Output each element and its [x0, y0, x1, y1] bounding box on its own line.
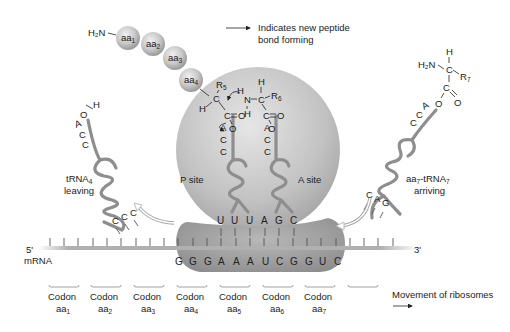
translation-diagram: 5' mRNA 3' G G G A A A U C G G U C U U U…: [0, 0, 510, 332]
mrna-base: A: [218, 256, 225, 267]
legend-text-line2: bond forming: [258, 34, 313, 45]
movement-legend: Movement of ribosomes: [392, 289, 494, 306]
legend-text-line1: Indicates new peptide: [258, 22, 350, 33]
codon-label: Codon aa1: [48, 291, 76, 315]
acc-base: C: [264, 134, 271, 145]
svg-text:Codon: Codon: [219, 291, 247, 302]
mrna-base: A: [233, 256, 240, 267]
acc-base: C: [264, 146, 271, 157]
leaving-trna-label-line2: leaving: [64, 185, 94, 196]
svg-text:C: C: [121, 211, 128, 222]
mrna-base: G: [175, 256, 183, 267]
mrna-base: C: [276, 256, 283, 267]
svg-text:aa6: aa6: [270, 303, 285, 315]
svg-text:Codon: Codon: [262, 291, 290, 302]
anticodon-base: U: [246, 215, 253, 226]
codon-label: Codon aa6: [262, 291, 290, 315]
svg-text:aa4: aa4: [184, 303, 199, 315]
svg-text:R7: R7: [460, 71, 471, 83]
svg-text:aa7: aa7: [312, 303, 327, 315]
svg-text:N: N: [244, 94, 251, 105]
svg-text:aa5: aa5: [227, 303, 242, 315]
leaving-trna: H O A C C C C C tRNA4 leaving: [64, 99, 174, 234]
three-prime-label: 3': [414, 244, 421, 255]
mrna-base: U: [262, 256, 269, 267]
mrna-base: G: [189, 256, 197, 267]
svg-text:C: C: [112, 215, 119, 226]
anticodon-base: A: [261, 215, 268, 226]
movement-label: Movement of ribosomes: [392, 289, 494, 300]
svg-text:C: C: [443, 82, 450, 93]
codon-label: Codon aa7: [304, 291, 332, 315]
svg-text:H: H: [199, 103, 206, 114]
svg-text:Codon: Codon: [304, 291, 332, 302]
svg-text:C: C: [258, 94, 265, 105]
svg-text:O: O: [435, 98, 442, 109]
svg-text:C: C: [263, 110, 270, 121]
amino-acid-bead: aa2: [141, 32, 165, 56]
svg-text:C: C: [446, 64, 453, 75]
mrna-base: C: [334, 256, 341, 267]
codon-label: Codon aa2: [90, 291, 118, 315]
anticodon-base: U: [217, 215, 224, 226]
a-site-label: A site: [298, 174, 321, 185]
svg-text:H: H: [446, 46, 453, 57]
codon-labels: Codon aa1 Codon aa2 Codon aa3 Codon aa4 …: [48, 285, 378, 315]
svg-text:C: C: [82, 139, 89, 150]
svg-text:O: O: [229, 123, 236, 134]
svg-text:H: H: [237, 85, 244, 96]
svg-text:O: O: [268, 123, 275, 134]
svg-text:C: C: [416, 109, 423, 120]
amino-acid-bead: aa1: [116, 26, 140, 50]
svg-text:H: H: [258, 76, 265, 87]
amino-acid-bead: aa3: [163, 46, 187, 70]
svg-text:O: O: [80, 109, 87, 120]
mrna-base: G: [290, 256, 298, 267]
peptide-chain: H₂N aa1 aa2 aa3 aa4: [88, 26, 209, 96]
ribosome-large-subunit: [176, 67, 340, 233]
svg-text:O: O: [277, 110, 284, 121]
leaving-trna-label-line1: tRNA4: [66, 173, 93, 185]
mrna-base: A: [247, 256, 254, 267]
mrna-label: mRNA: [24, 255, 53, 266]
acc-base: C: [220, 134, 227, 145]
svg-text:H: H: [93, 99, 100, 110]
svg-text:Codon: Codon: [48, 291, 76, 302]
amino-acid-bead: aa4: [179, 68, 203, 92]
mrna-base: U: [319, 256, 326, 267]
codon-label: Codon aa4: [176, 291, 204, 315]
codon-label: Codon aa5: [219, 291, 247, 315]
five-prime-label: 5': [26, 244, 33, 255]
legend: Indicates new peptide bond forming: [226, 22, 350, 45]
svg-text:A: A: [374, 193, 381, 204]
svg-text:H₂N: H₂N: [418, 59, 436, 70]
svg-text:aa3: aa3: [141, 303, 156, 315]
svg-text:C: C: [410, 117, 417, 128]
svg-text:Codon: Codon: [90, 291, 118, 302]
acc-base: C: [220, 146, 227, 157]
svg-text:aa1: aa1: [56, 303, 71, 315]
mrna-base: G: [305, 256, 313, 267]
svg-text:O: O: [454, 97, 461, 108]
svg-text:H: H: [244, 108, 251, 119]
p-site-label: P site: [180, 174, 204, 185]
anticodon-base: C: [290, 215, 297, 226]
anticodon-base: G: [275, 215, 283, 226]
arriving-trna: H H₂N C R7 C O O A C C C A G aa7-tRNA7 a…: [336, 46, 471, 230]
svg-text:G: G: [382, 197, 389, 208]
arriving-trna-label-line1: aa7-tRNA7: [406, 173, 450, 185]
arriving-trna-label-line2: arriving: [414, 185, 445, 196]
svg-text:Codon: Codon: [176, 291, 204, 302]
svg-text:C: C: [224, 110, 231, 121]
mrna-base: G: [204, 256, 212, 267]
n-terminus: H₂N: [88, 27, 106, 38]
anticodon-base: U: [231, 215, 238, 226]
codon-label: Codon aa3: [133, 291, 161, 315]
svg-text:aa2: aa2: [98, 303, 113, 315]
svg-text:Codon: Codon: [133, 291, 161, 302]
